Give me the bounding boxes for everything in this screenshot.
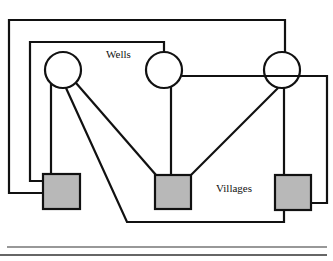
well-3-circle [264, 52, 300, 88]
wells-label: Wells [106, 48, 131, 60]
connection-well3-village2 [191, 88, 278, 175]
connection-well1-village2 [76, 83, 156, 175]
well-2-circle [146, 52, 182, 88]
village-1-box [43, 174, 80, 209]
village-2-box [155, 175, 191, 209]
well-1-circle [45, 52, 81, 88]
wells-villages-diagram: Wells Villages [0, 0, 333, 261]
villages-label: Villages [216, 182, 252, 194]
village-3-box [275, 175, 311, 210]
